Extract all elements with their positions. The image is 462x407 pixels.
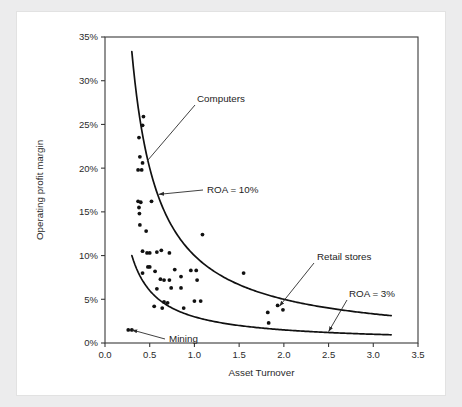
x-tick-label: 0.5 bbox=[143, 349, 156, 360]
data-point bbox=[155, 287, 159, 291]
data-point bbox=[153, 269, 157, 273]
y-tick-label: 25% bbox=[79, 119, 99, 130]
data-point bbox=[167, 251, 171, 255]
y-tick-label: 10% bbox=[79, 250, 99, 261]
data-point bbox=[148, 265, 152, 269]
x-axis-title: Asset Turnover bbox=[229, 367, 296, 378]
data-point bbox=[141, 271, 145, 275]
x-tick-label: 3.5 bbox=[411, 349, 424, 360]
chart-canvas: 0.00.51.01.52.02.53.03.50%5%10%15%20%25%… bbox=[17, 12, 445, 395]
x-tick-label: 0.0 bbox=[98, 349, 111, 360]
data-point bbox=[142, 115, 146, 119]
annotation-leader bbox=[329, 300, 347, 332]
data-point bbox=[141, 123, 145, 127]
annotation-leader bbox=[132, 330, 165, 339]
x-tick-label: 2.0 bbox=[277, 349, 290, 360]
data-point bbox=[138, 155, 142, 159]
curve-roa-10 bbox=[132, 52, 391, 316]
data-point bbox=[138, 212, 142, 216]
data-point bbox=[144, 229, 148, 233]
data-point bbox=[194, 269, 198, 273]
data-point bbox=[159, 248, 163, 252]
data-point bbox=[160, 306, 164, 310]
data-point bbox=[242, 271, 246, 275]
data-point bbox=[169, 286, 173, 290]
y-tick-label: 35% bbox=[79, 31, 99, 42]
data-point bbox=[137, 136, 141, 140]
y-tick-label: 30% bbox=[79, 75, 99, 86]
data-point bbox=[179, 275, 183, 279]
data-point bbox=[150, 199, 154, 203]
annotation-label: ROA = 3% bbox=[349, 288, 395, 299]
data-point bbox=[276, 304, 280, 308]
data-point bbox=[167, 278, 171, 282]
data-point bbox=[162, 300, 166, 304]
data-point bbox=[148, 251, 152, 255]
annotation-leader bbox=[159, 190, 203, 194]
data-point bbox=[166, 301, 170, 305]
y-tick-label: 20% bbox=[79, 163, 99, 174]
x-tick-label: 1.5 bbox=[233, 349, 246, 360]
data-point bbox=[137, 206, 141, 210]
data-point bbox=[162, 278, 166, 282]
annotation-label: Mining bbox=[169, 333, 198, 344]
data-point bbox=[141, 161, 145, 165]
annotation-leader bbox=[147, 105, 195, 161]
data-point bbox=[179, 286, 183, 290]
data-point bbox=[281, 308, 285, 312]
annotation-label: ROA = 10% bbox=[207, 184, 259, 195]
data-point bbox=[195, 278, 199, 282]
data-point bbox=[266, 311, 270, 315]
data-point bbox=[140, 168, 144, 172]
data-point bbox=[201, 233, 205, 237]
data-point bbox=[199, 299, 203, 303]
annotation-label: Computers bbox=[197, 93, 245, 104]
annotation-leader bbox=[279, 263, 314, 306]
y-axis-title: Operating profit margin bbox=[34, 140, 45, 240]
x-tick-label: 2.5 bbox=[322, 349, 335, 360]
data-point bbox=[136, 168, 140, 172]
data-point bbox=[141, 249, 145, 253]
data-point bbox=[173, 268, 177, 272]
data-point bbox=[159, 277, 163, 281]
data-point bbox=[193, 299, 197, 303]
data-point bbox=[182, 306, 186, 310]
x-tick-label: 1.0 bbox=[188, 349, 201, 360]
scatter-chart: 0.00.51.01.52.02.53.03.50%5%10%15%20%25%… bbox=[17, 12, 445, 395]
data-point bbox=[138, 223, 142, 227]
y-tick-label: 5% bbox=[84, 294, 98, 305]
figure-card: 0.00.51.01.52.02.53.03.50%5%10%15%20%25%… bbox=[17, 12, 445, 395]
data-point bbox=[189, 269, 193, 273]
data-point bbox=[267, 321, 271, 325]
data-point bbox=[139, 200, 143, 204]
data-point bbox=[152, 304, 156, 308]
annotation-label: Retail stores bbox=[317, 251, 372, 262]
y-tick-label: 0% bbox=[84, 337, 98, 348]
data-point bbox=[155, 250, 159, 254]
x-tick-label: 3.0 bbox=[367, 349, 380, 360]
y-tick-label: 15% bbox=[79, 206, 99, 217]
data-point bbox=[126, 328, 130, 332]
